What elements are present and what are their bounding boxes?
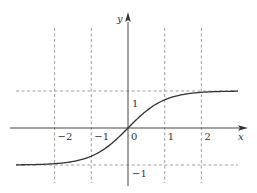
y-tick-label: −1	[132, 168, 147, 179]
x-axis-label: x	[238, 131, 244, 142]
tanh-chart: −2−10121−1xy	[0, 0, 257, 193]
x-tick-label: −1	[94, 131, 109, 142]
axes	[10, 12, 248, 186]
y-tick-label: 1	[132, 98, 138, 109]
y-axis-arrow-icon	[125, 12, 131, 22]
grid-lines	[16, 28, 238, 183]
x-tick-label: 0	[131, 131, 137, 142]
x-tick-label: 2	[204, 131, 210, 142]
tick-labels: −2−10121−1xy	[58, 13, 244, 179]
x-tick-label: 1	[168, 131, 174, 142]
x-tick-label: −2	[58, 131, 73, 142]
y-axis-label: y	[116, 13, 123, 24]
